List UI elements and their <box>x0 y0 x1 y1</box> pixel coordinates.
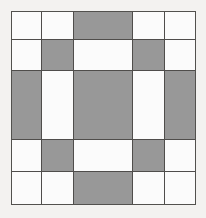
quilt-block-image <box>0 0 206 218</box>
patch-r1-c3 <box>74 11 133 40</box>
patch-r4-c2 <box>42 140 74 172</box>
patch-r3-c5 <box>165 71 196 140</box>
patch-r1-c1 <box>11 11 42 40</box>
patch-r3-c3 <box>74 71 133 140</box>
patch-r2-c1 <box>11 40 42 71</box>
patch-r3-c1 <box>11 71 42 140</box>
patch-r1-c5 <box>165 11 196 40</box>
patch-r4-c5 <box>165 140 196 172</box>
patch-r4-c1 <box>11 140 42 172</box>
patch-r5-c4 <box>133 172 165 205</box>
patch-grid <box>11 11 196 205</box>
patch-r2-c4 <box>133 40 165 71</box>
patch-r5-c5 <box>165 172 196 205</box>
patch-r1-c4 <box>133 11 165 40</box>
patch-r5-c1 <box>11 172 42 205</box>
quilt-block <box>11 11 196 205</box>
patch-r5-c3 <box>74 172 133 205</box>
patch-r4-c3 <box>74 140 133 172</box>
patch-r1-c2 <box>42 11 74 40</box>
patch-r5-c2 <box>42 172 74 205</box>
patch-r3-c4 <box>133 71 165 140</box>
patch-r3-c2 <box>42 71 74 140</box>
patch-r2-c3 <box>74 40 133 71</box>
patch-r2-c5 <box>165 40 196 71</box>
patch-r2-c2 <box>42 40 74 71</box>
patch-r4-c4 <box>133 140 165 172</box>
